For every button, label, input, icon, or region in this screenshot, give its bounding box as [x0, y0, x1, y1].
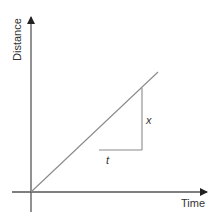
rise-label: x	[145, 114, 152, 126]
distance-time-diagram: x t Time Distance	[0, 0, 216, 221]
diagram-svg: x t Time Distance	[0, 0, 216, 221]
x-axis-label: Time	[181, 197, 205, 209]
y-axis-label: Distance	[11, 18, 23, 61]
run-label: t	[106, 154, 110, 166]
distance-time-line	[31, 72, 158, 192]
